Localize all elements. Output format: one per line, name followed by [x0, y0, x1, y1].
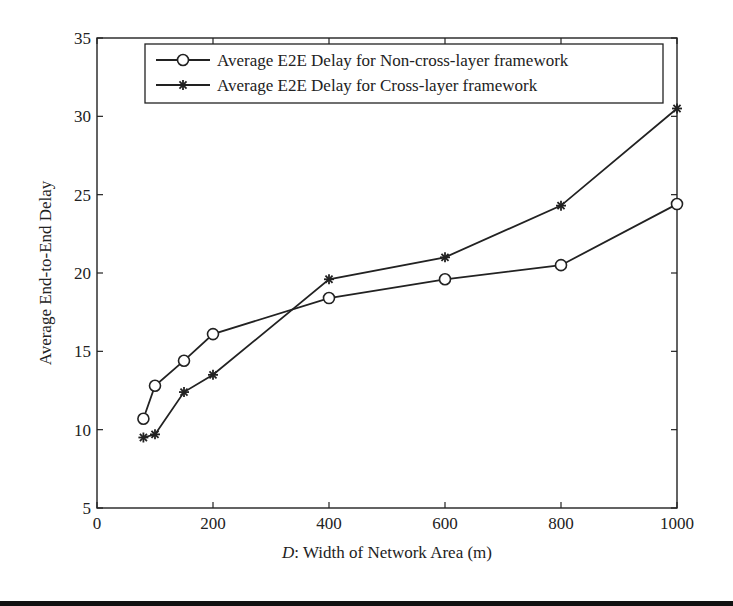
y-tick-label: 35	[74, 29, 91, 48]
data-point	[440, 252, 450, 262]
y-tick-label: 15	[74, 342, 91, 361]
data-point	[672, 104, 682, 114]
data-point	[208, 329, 219, 340]
data-point	[138, 433, 148, 443]
series-line	[143, 204, 677, 419]
plot-area-border	[97, 38, 677, 508]
y-tick-label: 5	[83, 499, 92, 518]
x-tick-label: 600	[432, 514, 458, 533]
legend-label: Average E2E Delay for Cross-layer framew…	[217, 76, 538, 95]
y-tick-label: 20	[74, 264, 91, 283]
bottom-rule-divider	[0, 601, 733, 606]
series-cross-layer	[138, 104, 682, 443]
data-point	[179, 387, 189, 397]
axis-ticks	[97, 38, 677, 508]
y-tick-label: 10	[74, 421, 91, 440]
plot-frame	[97, 38, 677, 508]
x-tick-label: 400	[316, 514, 342, 533]
star-marker-icon	[178, 80, 188, 90]
data-point	[556, 260, 567, 271]
y-tick-label: 25	[74, 186, 91, 205]
data-point	[208, 370, 218, 380]
x-axis-label-text: : Width of Network Area (m)	[294, 543, 492, 562]
data-point	[672, 199, 683, 210]
x-tick-label: 800	[548, 514, 574, 533]
data-point	[324, 293, 335, 304]
legend-label: Average E2E Delay for Non-cross-layer fr…	[217, 51, 569, 70]
x-tick-label: 0	[93, 514, 102, 533]
data-point	[324, 274, 334, 284]
series-non-cross-layer	[138, 199, 683, 425]
x-tick-label: 1000	[660, 514, 694, 533]
data-point	[150, 380, 161, 391]
data-point	[556, 201, 566, 211]
axis-tick-labels: 020040060080010005101520253035	[74, 29, 694, 533]
legend-item: Average E2E Delay for Non-cross-layer fr…	[156, 51, 569, 70]
line-chart: 020040060080010005101520253035 Average E…	[0, 0, 733, 606]
data-point	[440, 274, 451, 285]
data-series	[138, 104, 683, 443]
series-line	[143, 109, 677, 438]
y-tick-label: 30	[74, 107, 91, 126]
data-point	[150, 429, 160, 439]
x-axis-label-variable: D	[281, 543, 295, 562]
legend: Average E2E Delay for Non-cross-layer fr…	[145, 44, 663, 103]
x-axis-label: D: Width of Network Area (m)	[281, 543, 492, 562]
x-tick-label: 200	[200, 514, 226, 533]
circle-marker-icon	[178, 55, 189, 66]
data-point	[179, 355, 190, 366]
data-point	[138, 413, 149, 424]
y-axis-label: Average End-to-End Delay	[36, 180, 55, 365]
